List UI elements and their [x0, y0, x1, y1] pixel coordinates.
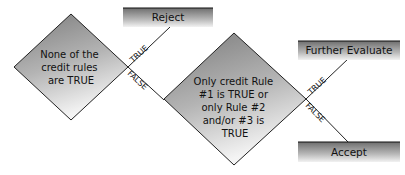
decision-diamond-2: Only credit Rule #1 is TRUE or only Rule…	[164, 33, 306, 165]
outcome-further-evaluate: Further Evaluate	[298, 41, 400, 60]
outcome-reject: Reject	[123, 8, 213, 27]
edge-label-d1-false: FALSE	[126, 69, 150, 92]
outcome-accept-label: Accept	[331, 146, 367, 158]
decision-1-text: None of the credit rules are TRUE	[40, 49, 102, 86]
outcome-reject-label: Reject	[152, 11, 185, 23]
edge-label-d2-true: TRUE	[305, 75, 327, 97]
outcome-accept: Accept	[298, 142, 400, 162]
edge-d1-false: FALSE	[126, 67, 164, 100]
edge-d2-false: FALSE	[304, 99, 348, 142]
edge-d2-true: TRUE	[305, 58, 349, 99]
decision-diamond-1: None of the credit rules are TRUE	[14, 14, 128, 120]
edge-d1-true: TRUE	[127, 27, 170, 67]
outcome-further-evaluate-label: Further Evaluate	[305, 44, 392, 56]
edge-label-d1-true: TRUE	[127, 43, 149, 65]
credit-decision-flowchart: TRUE FALSE TRUE FALSE None of the credit…	[0, 0, 405, 175]
edge-label-d2-false: FALSE	[304, 101, 327, 124]
